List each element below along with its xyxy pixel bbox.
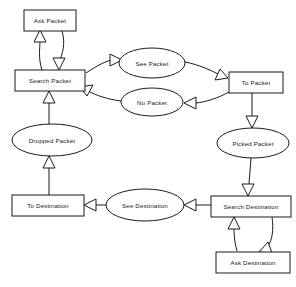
arrow-head-to-destination-in	[84, 199, 96, 211]
arrow-head-search-destination-in-top	[242, 184, 254, 196]
node-dropped-packet-label: Dropped Packet	[29, 137, 76, 144]
edge-picked-packet-to-search-destination	[249, 158, 251, 184]
edge-search-destination-to-ask-destination	[268, 217, 273, 246]
node-to-destination[interactable]: To Destination	[12, 195, 84, 216]
arrow-head-see-destination-in	[184, 199, 196, 211]
node-no-packet-label: No Packet	[137, 99, 167, 106]
node-to-packet-label: To Packet	[242, 79, 271, 86]
node-see-packet-label: See Packet	[135, 60, 168, 67]
node-to-packet[interactable]: To Packet	[229, 72, 283, 93]
flowchart-svg: Ask Packet Search Packet See Packet No P…	[0, 0, 296, 287]
edge-ask-destination-to-search-destination	[234, 228, 237, 251]
diagram-canvas: Ask Packet Search Packet See Packet No P…	[0, 0, 296, 287]
edge-no-packet-to-search-packet	[90, 92, 121, 101]
node-ask-packet[interactable]: Ask Packet	[24, 10, 76, 31]
node-search-packet[interactable]: Search Packet	[15, 70, 85, 91]
edge-search-packet-to-see-packet	[86, 60, 112, 73]
edge-to-packet-to-no-packet	[196, 92, 229, 103]
arrow-head-search-packet-in-bottom	[43, 91, 55, 103]
node-ask-destination-label: Ask Destination	[230, 259, 276, 266]
edge-see-packet-to-to-packet	[185, 62, 218, 74]
node-ask-destination[interactable]: Ask Destination	[216, 252, 290, 273]
arrow-head-search-packet-in-top	[53, 58, 65, 70]
arrow-head-no-packet-in	[184, 97, 196, 109]
edge-ask-packet-to-search-packet	[60, 31, 64, 60]
arrow-head-picked-packet-in	[246, 116, 258, 128]
arrow-head-dropped-packet-in	[43, 156, 55, 168]
arrow-head-search-destination-in-bottom	[228, 217, 240, 229]
node-see-packet[interactable]: See Packet	[119, 48, 185, 78]
node-picked-packet-label: Picked Packet	[232, 140, 273, 147]
node-ask-packet-label: Ask Packet	[34, 17, 67, 24]
arrow-head-to-packet-in-left	[215, 69, 228, 80]
node-to-destination-label: To Destination	[27, 202, 69, 209]
node-no-packet[interactable]: No Packet	[121, 88, 183, 116]
node-picked-packet[interactable]: Picked Packet	[217, 128, 289, 158]
node-search-destination[interactable]: Search Destination	[211, 196, 291, 217]
edge-search-packet-to-ask-packet	[40, 40, 43, 70]
node-dropped-packet[interactable]: Dropped Packet	[12, 124, 92, 156]
arrow-head-ask-destination-in	[259, 242, 272, 253]
node-search-packet-label: Search Packet	[29, 77, 71, 84]
node-see-destination[interactable]: See Destination	[106, 189, 184, 221]
arrow-head-ask-packet-in	[34, 30, 46, 42]
node-see-destination-label: See Destination	[122, 202, 168, 209]
node-search-destination-label: Search Destination	[224, 203, 279, 210]
